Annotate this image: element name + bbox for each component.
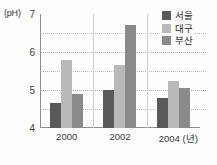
bar-group xyxy=(93,14,146,128)
legend-item-label: 부산 xyxy=(175,36,193,46)
legend-item-label: 대구 xyxy=(175,24,193,34)
ph-bar-chart: (pH) 7654 200020022004 (년) 서울대구부산 xyxy=(0,0,217,165)
legend-swatch-icon xyxy=(162,24,171,33)
bar xyxy=(125,25,136,128)
y-tick-label: 7 xyxy=(29,9,35,20)
legend-item[interactable]: 대구 xyxy=(162,24,193,34)
bar xyxy=(72,94,83,128)
x-tick-label: 2004 (년) xyxy=(152,131,205,147)
y-axis-unit-label: (pH) xyxy=(4,8,21,18)
y-tick-label: 6 xyxy=(29,46,35,57)
chart-legend: 서울대구부산 xyxy=(160,10,195,47)
legend-item[interactable]: 부산 xyxy=(162,36,193,46)
bar xyxy=(114,65,125,128)
y-tick-label: 4 xyxy=(29,123,35,134)
bar xyxy=(168,81,179,129)
bar-group xyxy=(40,14,93,128)
bar xyxy=(50,103,61,128)
x-tick-label: 2000 xyxy=(40,131,93,147)
legend-item[interactable]: 서울 xyxy=(162,11,193,21)
legend-swatch-icon xyxy=(162,36,171,45)
x-axis-ticks: 200020022004 (년) xyxy=(40,131,200,147)
bar xyxy=(103,90,114,128)
y-tick-label: 5 xyxy=(29,84,35,95)
bar xyxy=(61,60,72,128)
bar xyxy=(157,98,168,128)
x-tick-label: 2002 xyxy=(93,131,146,147)
legend-item-label: 서울 xyxy=(175,11,193,21)
legend-swatch-icon xyxy=(162,11,171,20)
bar xyxy=(179,88,190,128)
